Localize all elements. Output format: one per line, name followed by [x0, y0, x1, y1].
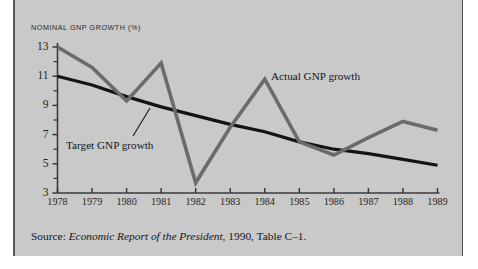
x-axis-label: 1982	[179, 196, 213, 207]
chart-plot	[0, 0, 478, 256]
x-axis-label: 1979	[75, 196, 109, 207]
series-label-target: Target GNP growth	[66, 139, 153, 151]
y-axis-label: 5	[31, 157, 49, 169]
source-caption: Source: Economic Report of the President…	[31, 230, 306, 242]
y-axis-label: 9	[31, 98, 49, 110]
x-axis-label: 1988	[386, 196, 420, 207]
source-title: Economic Report of the President	[69, 230, 223, 242]
series-line-actual	[58, 47, 438, 183]
series-label-actual: Actual GNP growth	[271, 70, 360, 82]
leader-line-target	[133, 108, 150, 136]
x-axis-label: 1985	[282, 196, 316, 207]
y-axis-label: 11	[31, 69, 49, 81]
x-axis-label: 1984	[248, 196, 282, 207]
source-prefix: Source:	[31, 230, 66, 242]
x-axis-label: 1981	[144, 196, 178, 207]
x-axis-label: 1987	[351, 196, 385, 207]
x-axis-label: 1986	[317, 196, 351, 207]
y-axis-label: 13	[31, 40, 49, 52]
source-suffix: , 1990, Table C–1.	[223, 230, 307, 242]
figure-container: NOMINAL GNP GROWTH (%) 13119753 19781979…	[0, 0, 478, 269]
x-axis-label: 1983	[213, 196, 247, 207]
x-axis-label: 1989	[421, 196, 455, 207]
y-axis-label: 7	[31, 128, 49, 140]
x-axis-label: 1978	[41, 196, 75, 207]
x-axis-label: 1980	[110, 196, 144, 207]
